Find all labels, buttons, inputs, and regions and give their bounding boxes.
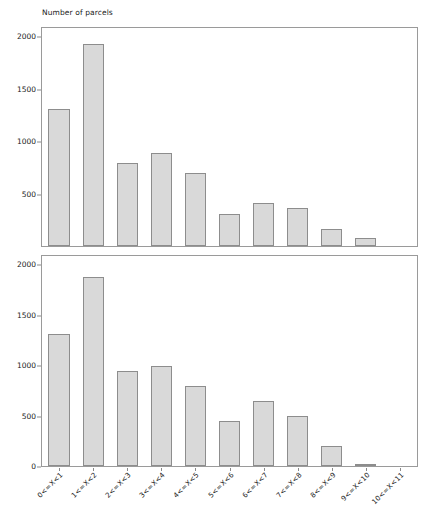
bar-slot (383, 28, 417, 246)
bar-group-bottom (42, 256, 417, 466)
bar-slot (76, 256, 110, 466)
bar (287, 208, 308, 246)
x-axis-labels-bottom: 0<=X<11<=X<22<=X<33<=X<44<=X<55<=X<66<=X… (42, 468, 417, 469)
y-tick-label: 1500 (17, 86, 41, 94)
bar-slot (315, 28, 349, 246)
x-tick-slot: 4<=X<5 (178, 468, 212, 469)
plot-area-top (41, 27, 418, 247)
bar (48, 109, 69, 246)
bar-slot (349, 28, 383, 246)
x-tick-slot: 1<=X<2 (76, 468, 110, 469)
x-tick-label: 6<=X<7 (241, 471, 270, 500)
x-tick-label: 4<=X<5 (172, 471, 201, 500)
bar (151, 153, 172, 246)
bar (253, 401, 274, 466)
bar-slot (178, 28, 212, 246)
x-tick-label: 9<=X<10 (340, 471, 372, 503)
x-tick-slot: 3<=X<4 (144, 468, 178, 469)
bar-slot (110, 28, 144, 246)
x-tick-label: 2<=X<3 (104, 471, 133, 500)
bar-slot (247, 28, 281, 246)
bar (83, 277, 104, 467)
y-tick-label: 2000 (17, 34, 41, 42)
x-tick-label: 1<=X<2 (70, 471, 99, 500)
x-tick-slot: 10<=X<11 (383, 468, 417, 469)
x-tick-mark (195, 468, 196, 471)
bar-group-top (42, 28, 417, 246)
bar (219, 421, 240, 466)
x-tick-slot: 8<=X<9 (315, 468, 349, 469)
plot-area-bottom (41, 255, 418, 467)
x-tick-label: 0<=X<1 (36, 471, 65, 500)
bar-slot (212, 28, 246, 246)
x-tick-label: 5<=X<6 (207, 471, 236, 500)
x-tick-label: 10<=X<11 (370, 471, 405, 506)
x-tick-slot: 7<=X<8 (281, 468, 315, 469)
y-tick-label: 500 (22, 191, 41, 199)
bar (355, 238, 376, 246)
bar (185, 173, 206, 246)
x-tick-slot: 6<=X<7 (247, 468, 281, 469)
bar-slot (76, 28, 110, 246)
x-tick-slot: 9<=X<10 (349, 468, 383, 469)
bar (321, 229, 342, 246)
bar-slot (281, 256, 315, 466)
bar (117, 163, 138, 246)
x-tick-label: 8<=X<9 (309, 471, 338, 500)
bar-slot (247, 256, 281, 466)
bar-slot (383, 256, 417, 466)
y-tick-label: 2000 (17, 261, 41, 269)
x-tick-slot: 5<=X<6 (212, 468, 246, 469)
y-tick-label: 1000 (17, 138, 41, 146)
bar-slot (144, 256, 178, 466)
bar (117, 371, 138, 466)
bar (253, 203, 274, 246)
bar (83, 44, 104, 246)
y-tick-label: 1500 (17, 312, 41, 320)
bar (48, 334, 69, 466)
bar-slot (212, 256, 246, 466)
y-tick-label: 1000 (17, 362, 41, 370)
chart-panel-top: Number of parcels 200015001000500 (0, 0, 425, 253)
bar (219, 214, 240, 246)
bar-slot (349, 256, 383, 466)
bar (185, 386, 206, 466)
y-tick-label: 500 (22, 413, 41, 421)
bar-slot (281, 28, 315, 246)
bar (355, 464, 376, 466)
bar-slot (42, 28, 76, 246)
bar (151, 366, 172, 466)
bar-slot (178, 256, 212, 466)
x-tick-label: 7<=X<8 (275, 471, 304, 500)
x-tick-slot: 0<=X<1 (42, 468, 76, 469)
bar-slot (315, 256, 349, 466)
bar (321, 446, 342, 467)
x-tick-label: 3<=X<4 (138, 471, 167, 500)
figure-histogram-pair: Number of parcels 200015001000500 0<=X<1… (0, 0, 425, 529)
bar-slot (42, 256, 76, 466)
bar (287, 416, 308, 466)
bar-slot (110, 256, 144, 466)
x-tick-slot: 2<=X<3 (110, 468, 144, 469)
y-tick-label: 0 (31, 463, 41, 471)
bar-slot (144, 28, 178, 246)
chart-panel-bottom: 0<=X<11<=X<22<=X<33<=X<44<=X<55<=X<66<=X… (0, 253, 425, 529)
chart-title-top: Number of parcels (42, 8, 113, 17)
